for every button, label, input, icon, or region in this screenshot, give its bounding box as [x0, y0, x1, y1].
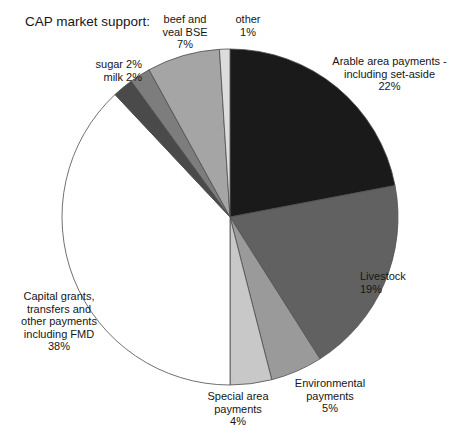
slice-label-beef-and-veal-bse: beef and veal BSE 7% [148, 13, 222, 51]
slice-label-other: other 1% [225, 13, 271, 38]
pie-chart-figure: CAP market support: beef and veal BSE 7%… [0, 0, 451, 442]
slice-label-milk: milk 2% [42, 71, 142, 84]
slice-label-sugar: sugar 2% [42, 58, 142, 71]
slice-label-capital-grants: Capital grants, transfers and other paym… [6, 290, 112, 353]
slice-label-arable-area-payments: Arable area payments - including set-asi… [330, 55, 449, 93]
slice-label-environmental-payments: Environmental payments 5% [284, 377, 376, 415]
slice-label-special-area-payments: Special area payments 4% [192, 390, 284, 428]
slice-label-livestock: Livestock 19% [360, 270, 446, 295]
pie-slice-group [62, 49, 398, 385]
